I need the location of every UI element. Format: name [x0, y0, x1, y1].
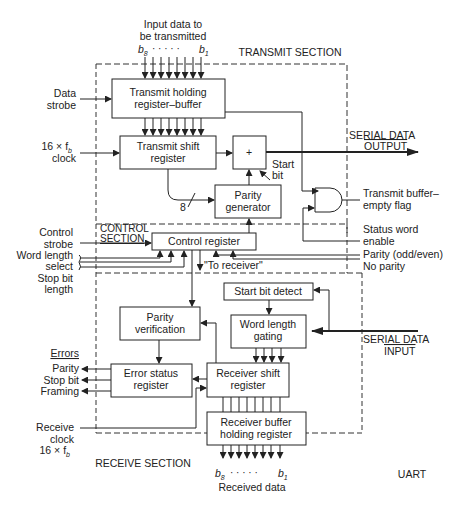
rx-buffer-label-2: holding register [220, 428, 292, 440]
and-gate [315, 188, 342, 212]
rx-b8-label: b8 [215, 467, 225, 481]
error-parity-label: Parity [52, 362, 80, 374]
parity-odd-even-label: Parity (odd/even) [363, 248, 443, 260]
control-section-label-2: SECTION [100, 233, 144, 244]
input-data-label-2: be transmitted [140, 30, 207, 42]
data-strobe-label-2: strobe [47, 99, 76, 111]
input-data-label-1: Input data to [144, 18, 203, 30]
word-length-select-line-2 [80, 251, 171, 262]
uart-block-diagram: TRANSMIT SECTION CONTROL SECTION RECEIVE… [0, 0, 459, 509]
tx-shift-label-1: Transmit shift [137, 140, 200, 152]
word-gating-label-1: Word length [240, 318, 297, 330]
rx-buffer-label-1: Receiver buffer [220, 416, 292, 428]
adder-symbol: + [246, 146, 252, 158]
bus-width-label: 8 [180, 201, 186, 213]
received-data-bus [223, 445, 280, 458]
tx-shift-label-2: register [150, 152, 186, 164]
transmit-section-label: TRANSMIT SECTION [238, 46, 341, 58]
parity-odd-even-line [216, 251, 360, 255]
rx-b1-label: b1 [278, 467, 288, 481]
rx-clock-label-1: Receive [36, 421, 74, 433]
tx-holding-label-1: Transmit holding [129, 86, 206, 98]
serial-out-label-2: OUTPUT [364, 140, 408, 152]
start-bit-label-2: bit [272, 169, 283, 181]
stop-bit-length-label-2: length [44, 283, 73, 295]
input-b8-label: b8 [138, 43, 148, 57]
status-enable-label-1: Status word [363, 223, 419, 235]
parity-gen-label-1: Parity [235, 189, 263, 201]
serial-in-label-1: SERIAL DATA [363, 333, 429, 345]
input-dots: · · · · · [152, 43, 180, 54]
word-length-label-2: select [46, 260, 74, 272]
serial-in-to-start-detect [314, 290, 329, 331]
status-enable-label-2: enable [363, 235, 395, 247]
parity-verif-label-2: verification [135, 323, 185, 335]
rx-shift-label-1: Receiver shift [216, 367, 280, 379]
errors-heading: Errors [50, 347, 79, 359]
data-strobe-label-1: Data [54, 87, 76, 99]
rx-shift-to-buffer-bus [223, 397, 280, 412]
tx-empty-label-1: Transmit buffer– [363, 187, 439, 199]
serial-in-label-2: INPUT [384, 345, 416, 357]
error-framing-label: Framing [40, 385, 79, 397]
error-status-label-1: Error status [124, 367, 178, 379]
start-bit-pointer [260, 171, 270, 180]
input-b1-label: b1 [199, 43, 209, 57]
uart-title: UART [398, 468, 427, 480]
control-register-label: Control register [168, 235, 240, 247]
to-receiver-label: "To receiver" [204, 259, 263, 271]
word-gating-label-2: gating [254, 330, 283, 342]
tx-empty-label-2: empty flag [363, 199, 412, 211]
control-strobe-label-1: Control [39, 226, 73, 238]
error-status-label-2: register [133, 379, 169, 391]
receive-section-label: RECEIVE SECTION [95, 457, 191, 469]
word-length-select-line-1 [80, 251, 160, 258]
tx-holding-label-2: register–buffer [134, 98, 202, 110]
bus-to-parity-generator [168, 169, 214, 200]
rx-shift-to-parity-verif [201, 323, 216, 363]
rx-shift-label-2: register [230, 379, 266, 391]
rx-dots: · · · · · [230, 467, 258, 478]
received-data-label: Received data [218, 481, 285, 493]
holding-to-shift-bus [145, 118, 201, 135]
no-parity-label: No parity [363, 260, 406, 272]
parity-gen-label-2: generator [226, 201, 271, 213]
input-data-bus [145, 57, 201, 78]
parity-verif-label-1: Parity [147, 311, 175, 323]
tx-clock-label-2: clock [52, 152, 77, 164]
rx-clock-label-3: 16 × fb [40, 444, 71, 458]
gating-to-shift-bus [256, 348, 281, 362]
start-bit-detect-label: Start bit detect [234, 285, 302, 297]
